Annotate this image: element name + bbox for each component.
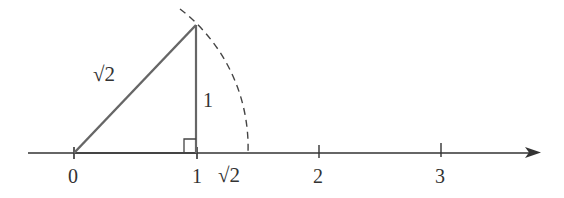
tick-label-2: 2	[313, 166, 323, 186]
diagram-canvas	[0, 0, 564, 198]
hypotenuse	[74, 25, 196, 153]
tick-label-0: 0	[68, 166, 78, 186]
sqrt2-number-line-diagram: √2 1 0 1 √2 2 3	[0, 0, 564, 198]
right-angle-marker	[184, 139, 196, 153]
tick-label-1: 1	[192, 166, 202, 186]
tick-label-3: 3	[435, 166, 445, 186]
leg-label: 1	[203, 90, 213, 110]
tick-label-sqrt2: √2	[218, 165, 240, 185]
hypotenuse-label: √2	[93, 64, 115, 84]
